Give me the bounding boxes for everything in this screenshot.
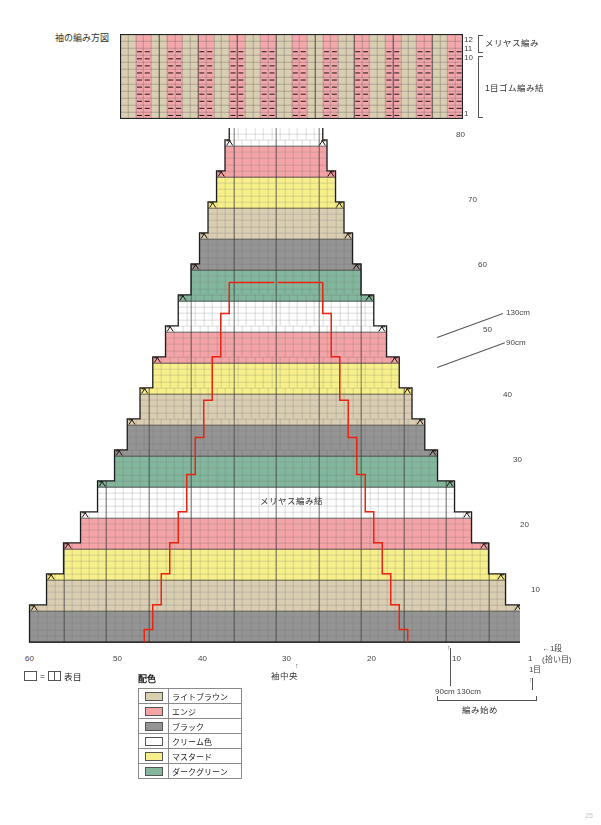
color-key-table: ライトブラウンエンジブラッククリーム色マスタードダークグリーン xyxy=(138,688,242,779)
bracket-stockinette xyxy=(478,35,479,53)
color-chip-black xyxy=(145,722,163,731)
sleeve-center-axis-label: 袖中央 xyxy=(271,672,298,681)
bracket-label-rib: 1目ゴム編み結 xyxy=(485,84,544,93)
stitch-key-blank-cell xyxy=(24,671,37,681)
sleeve-row-label-40: 40 xyxy=(503,391,512,399)
sleeve-row-label-70: 70 xyxy=(468,196,477,204)
annotation-130cm: 130cm xyxy=(506,309,530,317)
cuff-row-label-1: 1 xyxy=(464,110,468,118)
cuff-knitting-chart xyxy=(120,34,463,119)
cuff-row-label-11: 11 xyxy=(464,45,472,53)
color-key-swatch xyxy=(139,734,169,749)
color-key-swatch xyxy=(139,704,169,719)
color-key-title: 配色 xyxy=(138,672,156,685)
color-key-row: ダークグリーン xyxy=(139,764,242,779)
bracket-start-span-left xyxy=(437,696,438,701)
color-key-row: クリーム色 xyxy=(139,734,242,749)
color-chip-engi xyxy=(145,707,163,716)
color-key-row: マスタード xyxy=(139,749,242,764)
annotation-first-row: ←1段 xyxy=(542,645,562,653)
color-key-name: クリーム色 xyxy=(169,734,242,749)
sleeve-col-label-50: 50 xyxy=(113,655,122,663)
cuff-row-label-12: 12 xyxy=(464,36,473,44)
sleeve-col-label-20: 20 xyxy=(367,655,376,663)
color-chip-light-brown xyxy=(145,692,163,701)
sleeve-row-label-50: 50 xyxy=(483,326,492,334)
color-key-row: エンジ xyxy=(139,704,242,719)
page-number: 25 xyxy=(585,812,593,819)
bracket-start-span xyxy=(437,700,537,701)
sleeve-row-label-60: 60 xyxy=(478,261,487,269)
sleeve-row-label-20: 20 xyxy=(520,521,529,529)
color-chip-cream xyxy=(145,737,163,746)
color-key-row: ライトブラウン xyxy=(139,689,242,704)
color-key-swatch xyxy=(139,749,169,764)
arrow-one-stitch: ↑ xyxy=(529,676,533,683)
annotation-start-knitting: 編み始め xyxy=(462,706,498,715)
arrow-start-left: ↑ xyxy=(447,644,451,651)
stitch-key-label: 表目 xyxy=(64,670,82,682)
annotation-pickup: (拾い目) xyxy=(542,656,571,664)
annotation-one-stitch: 1目 xyxy=(529,666,541,674)
cuff-chart-title: 袖の編み方図 xyxy=(55,34,109,43)
sleeve-col-label-1: 1 xyxy=(528,655,532,663)
color-chip-mustard xyxy=(145,752,163,761)
color-key-row: ブラック xyxy=(139,719,242,734)
color-key-name: マスタード xyxy=(169,749,242,764)
annotation-90cm: 90cm xyxy=(506,339,526,347)
stitch-key: = 表目 xyxy=(24,670,82,682)
color-key-name: ダークグリーン xyxy=(169,764,242,779)
bracket-rib xyxy=(478,56,479,118)
sleeve-row-label-10: 10 xyxy=(531,586,540,594)
sleeve-col-label-60: 60 xyxy=(25,655,34,663)
color-key-name: エンジ xyxy=(169,704,242,719)
tick-start-left xyxy=(450,648,451,686)
sleeve-col-label-10: 10 xyxy=(452,655,461,663)
sleeve-col-label-30: 30 xyxy=(282,655,291,663)
sleeve-shaping-chart xyxy=(20,128,520,648)
sleeve-row-label-30: 30 xyxy=(513,456,522,464)
sleeve-row-label-80: 80 xyxy=(456,131,465,139)
color-key-swatch xyxy=(139,719,169,734)
bracket-label-stockinette: メリヤス編み xyxy=(485,39,539,48)
bracket-start-span-right xyxy=(536,696,537,701)
sleeve-col-label-40: 40 xyxy=(198,655,207,663)
sleeve-center-arrow: ↑ xyxy=(295,662,299,669)
cuff-row-label-10: 10 xyxy=(464,54,473,62)
color-key-name: ブラック xyxy=(169,719,242,734)
stitch-key-knit-cell xyxy=(48,671,61,681)
color-key-swatch xyxy=(139,764,169,779)
stitch-key-equals: = xyxy=(40,671,45,681)
annotation-sizes: 90cm 130cm xyxy=(435,688,481,696)
color-key-swatch xyxy=(139,689,169,704)
sleeve-center-stitch-label: メリヤス編み結 xyxy=(260,497,323,506)
color-chip-dark-green xyxy=(145,767,163,776)
color-key-name: ライトブラウン xyxy=(169,689,242,704)
